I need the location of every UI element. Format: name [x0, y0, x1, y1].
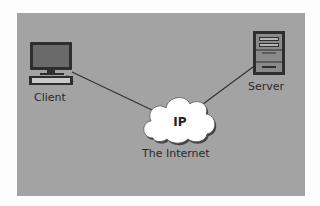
client-label: Client — [34, 91, 66, 104]
internet-label: The Internet — [142, 147, 210, 160]
server-label: Server — [248, 80, 284, 93]
cloud-inner-text: IP — [173, 115, 186, 129]
server-tower-icon — [253, 31, 285, 75]
edge-internet-server — [203, 67, 253, 104]
edge-client-internet — [72, 72, 152, 110]
desktop-computer-icon — [29, 42, 73, 85]
